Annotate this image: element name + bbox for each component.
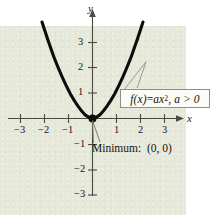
x-tick-label-neg2: −2 xyxy=(38,124,49,135)
minimum-leader-line xyxy=(93,121,101,144)
callout-argument: (x) xyxy=(134,93,147,105)
y-tick-label-1: 1 xyxy=(78,86,83,97)
y-tick-label-3: 3 xyxy=(78,36,83,47)
y-tick-label-neg2: −2 xyxy=(74,163,85,174)
minimum-annotation-label: Minimum: xyxy=(92,142,141,154)
function-callout-box: f(x) = ax2, a > 0 xyxy=(120,89,210,108)
callout-condition: , a > 0 xyxy=(168,93,199,105)
x-tick-label-neg3: −3 xyxy=(14,124,25,135)
x-tick-label-1: 1 xyxy=(114,124,119,135)
y-tick-label-neg3: −3 xyxy=(74,188,85,199)
y-axis xyxy=(89,9,96,196)
y-tick-label-neg1: −1 xyxy=(74,138,85,149)
parabola-figure: −3 −2 −1 1 2 3 3 2 1 −1 −2 −3 x y f(x) =… xyxy=(0,0,214,215)
y-axis-label: y xyxy=(88,2,93,14)
x-tick-label-neg1: −1 xyxy=(62,124,73,135)
x-tick-label-2: 2 xyxy=(138,124,143,135)
x-axis-label: x xyxy=(187,112,192,124)
minimum-annotation-point: (0, 0) xyxy=(147,142,172,154)
y-tick-label-2: 2 xyxy=(78,61,83,72)
callout-equals: = xyxy=(147,93,154,105)
minimum-annotation: Minimum: (0, 0) xyxy=(92,142,172,154)
x-tick-label-3: 3 xyxy=(162,124,167,135)
